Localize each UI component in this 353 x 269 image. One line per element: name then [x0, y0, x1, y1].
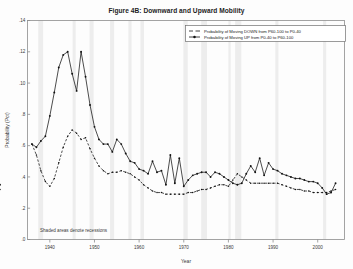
recession-band [323, 21, 326, 240]
recession-band [201, 21, 207, 240]
data-point-down [277, 182, 279, 184]
data-point-down [241, 176, 243, 178]
data-point-down [89, 148, 91, 150]
data-point-down [129, 173, 131, 175]
data-point-up [156, 171, 158, 173]
data-point-down [85, 137, 87, 139]
x-tick-label: 1980 [223, 245, 234, 250]
data-point-down [152, 190, 154, 192]
data-point-up [120, 143, 122, 145]
data-point-up [277, 170, 279, 172]
x-axis-ticks: 1940195019601970198019902000 [45, 240, 324, 251]
y-tick-label: .6 [21, 143, 25, 148]
data-point-up [236, 184, 238, 186]
data-point-up [129, 160, 131, 162]
data-point-down [313, 192, 315, 194]
data-point-down [147, 187, 149, 189]
data-point-down [281, 184, 283, 186]
data-point-up [178, 157, 180, 159]
data-point-down [107, 173, 109, 175]
x-tick-label: 2000 [313, 245, 324, 250]
data-point-up [62, 54, 64, 56]
legend-entry-down: Probability of Moving DOWN from P60-100 … [189, 29, 301, 34]
data-point-up [250, 165, 252, 167]
data-point-up [299, 178, 301, 180]
x-axis-title: Year [181, 258, 191, 264]
data-point-down [174, 193, 176, 195]
y-tick-label: .0 [21, 237, 25, 242]
data-point-up [169, 154, 171, 156]
recession-band [275, 21, 278, 240]
data-point-up [272, 168, 274, 170]
data-point-down [196, 190, 198, 192]
data-point-up [223, 176, 225, 178]
data-point-up [53, 92, 55, 94]
data-point-down [67, 136, 69, 138]
data-point-up [125, 153, 127, 155]
y-axis-title: Probability (Pct) [4, 112, 10, 148]
data-point-down [268, 182, 270, 184]
data-point-up [290, 176, 292, 178]
y-tick-label: .10 [19, 81, 26, 86]
y-tick-label: .14 [19, 18, 26, 23]
data-point-up [165, 184, 167, 186]
data-point-up [330, 192, 332, 194]
data-point-up [312, 181, 314, 183]
data-point-up [89, 104, 91, 106]
recession-band [90, 21, 94, 240]
data-point-down [0, 189, 1, 191]
recession-band [183, 21, 187, 240]
data-point-down [223, 184, 225, 186]
recession-band [73, 21, 76, 240]
legend-marker-dot [193, 36, 196, 39]
data-point-up [263, 174, 265, 176]
data-point-up [335, 182, 337, 184]
data-point-down [170, 193, 172, 195]
recession-band [140, 21, 144, 240]
data-point-up [107, 143, 109, 145]
x-tick-label: 1940 [45, 245, 56, 250]
data-point-down [259, 182, 261, 184]
data-point-up [286, 174, 288, 176]
data-point-down [40, 170, 42, 172]
data-point-down [237, 173, 239, 175]
data-point-up [214, 171, 216, 173]
data-point-up [152, 160, 154, 162]
y-tick-label: .8 [21, 112, 25, 117]
data-point-down [125, 171, 127, 173]
data-point-down [143, 184, 145, 186]
data-point-down [45, 181, 47, 183]
data-point-down [76, 132, 78, 134]
x-tick-label: 1960 [134, 245, 145, 250]
data-point-up [259, 157, 261, 159]
data-point-down [299, 189, 301, 191]
data-point-up [281, 173, 283, 175]
y-axis-ticks: .0.2.4.6.8.10.12.14 [19, 18, 30, 242]
data-point-up [201, 171, 203, 173]
data-point-down [219, 184, 221, 186]
data-point-up [147, 173, 149, 175]
data-point-up [183, 185, 185, 187]
data-point-down [232, 179, 234, 181]
data-point-up [321, 187, 323, 189]
data-point-down [210, 187, 212, 189]
data-point-down [58, 162, 60, 164]
data-point-up [138, 168, 140, 170]
data-point-up [294, 178, 296, 180]
data-point-up [102, 143, 104, 145]
data-point-down [103, 170, 105, 172]
y-tick-label: .4 [21, 175, 25, 180]
data-point-down [54, 178, 56, 180]
data-point-down [165, 193, 167, 195]
data-point-down [80, 139, 82, 141]
data-point-up [227, 179, 229, 181]
data-point-down [98, 165, 100, 167]
data-point-up [174, 182, 176, 184]
x-tick-label: 1950 [89, 245, 100, 250]
data-point-down [187, 192, 189, 194]
data-point-up [76, 90, 78, 92]
mobility-line-chart: .0.2.4.6.8.10.12.14 19401950196019701980… [0, 0, 353, 269]
y-tick-label: .12 [19, 49, 26, 54]
data-point-up [111, 151, 113, 153]
recession-band [38, 21, 43, 240]
